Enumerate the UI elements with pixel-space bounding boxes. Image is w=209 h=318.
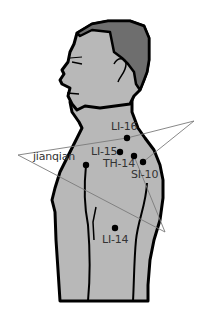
label-li16: LI-16: [111, 121, 137, 133]
point-li14[interactable]: [112, 225, 118, 231]
acupoint-diagram: LI-16 LI-15 TH-14 SI-10 jianqian LI-14: [0, 0, 209, 318]
point-li15[interactable]: [117, 149, 123, 155]
label-li14: LI-14: [102, 234, 128, 246]
point-li16[interactable]: [124, 135, 130, 141]
point-jianqian[interactable]: [83, 162, 89, 168]
point-si10[interactable]: [140, 159, 146, 165]
label-jianqian: jianqian: [33, 151, 75, 163]
label-si10: SI-10: [131, 169, 158, 181]
mouth: [67, 93, 79, 94]
